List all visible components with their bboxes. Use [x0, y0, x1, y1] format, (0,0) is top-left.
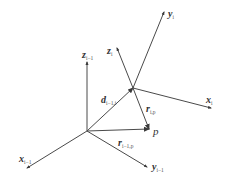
coordinate-frames-diagram — [0, 0, 229, 184]
label-sub: i−1 — [156, 167, 163, 173]
label-sub: i — [111, 51, 113, 57]
label-z-prev: zi−1 — [82, 50, 93, 62]
label-sub: i — [211, 100, 213, 106]
label-sub: i−1 — [24, 159, 31, 165]
axis-x-i — [133, 88, 211, 108]
axis-z-i — [117, 48, 133, 88]
label-r-i-p: ri,p — [146, 104, 156, 116]
label-sub: i — [172, 14, 174, 20]
label-text: p — [153, 125, 159, 137]
axis-y-i — [133, 12, 164, 88]
label-sub: i−1 — [86, 55, 93, 61]
axis-x-prev — [27, 131, 87, 168]
label-d: di−1,i — [101, 95, 116, 107]
label-z-i: zi — [107, 46, 112, 58]
label-sub: i,p — [150, 109, 156, 115]
label-sub: i−1,p — [122, 143, 134, 149]
axis-y-prev — [87, 131, 147, 167]
label-r-prev-p: ri−1,p — [118, 138, 133, 150]
label-sub: i−1,i — [106, 100, 116, 106]
label-y-i: yi — [168, 9, 174, 21]
label-point-p: p — [153, 126, 159, 137]
vector-r-prev-p — [87, 129, 149, 131]
label-x-i: xi — [206, 95, 213, 107]
label-x-prev: xi−1 — [19, 154, 31, 166]
label-y-prev: yi−1 — [152, 162, 164, 174]
